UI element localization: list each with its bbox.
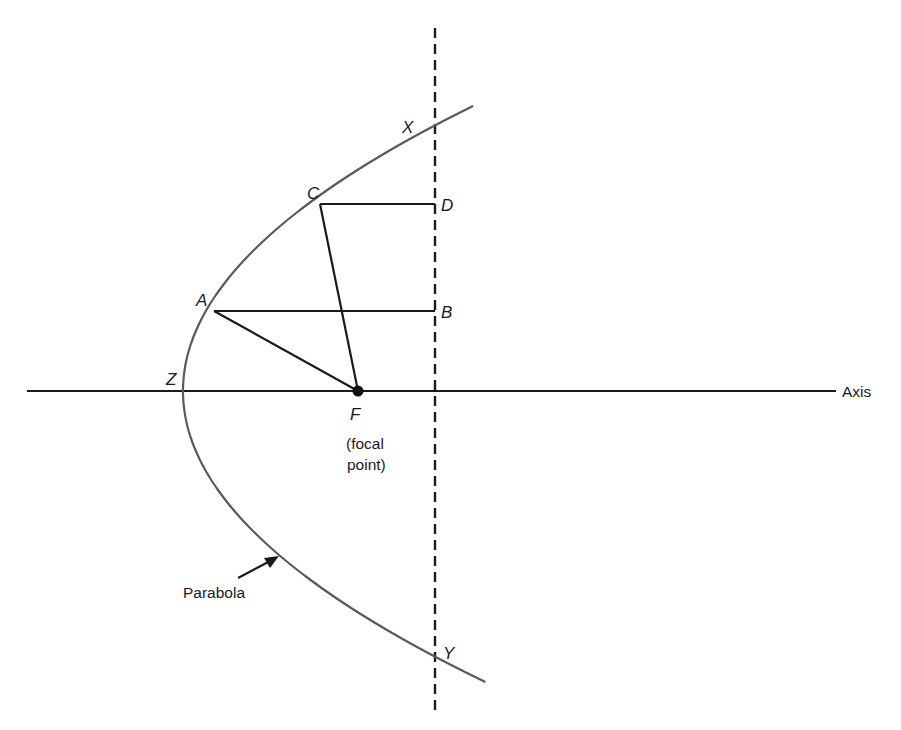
label-c: C: [307, 184, 320, 203]
label-a: A: [195, 291, 207, 310]
label-y: Y: [443, 644, 456, 663]
parabola-focal-diagram: Axis X C D A B Z F Y (focal point) Parab…: [0, 0, 901, 730]
label-f: F: [350, 405, 362, 424]
segment-c-f: [320, 204, 358, 391]
label-z: Z: [165, 370, 177, 389]
label-d: D: [441, 196, 453, 215]
focal-point-caption-line1: (focal: [346, 435, 384, 452]
axis-label: Axis: [842, 383, 872, 400]
label-b: B: [441, 303, 452, 322]
label-x: X: [401, 118, 414, 137]
parabola-label: Parabola: [183, 584, 245, 601]
focal-point-caption-line2: point): [347, 456, 386, 473]
focal-point-dot: [353, 386, 364, 397]
segment-a-f: [214, 311, 358, 391]
